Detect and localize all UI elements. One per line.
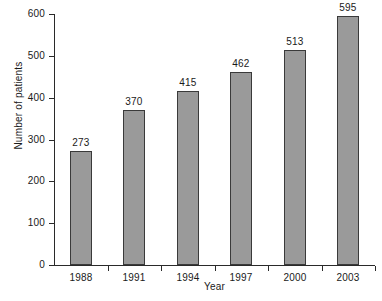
bar-value-label: 370 — [107, 96, 161, 107]
y-tick-label: 600 — [0, 8, 45, 19]
x-tick-mark — [215, 266, 216, 271]
y-tick-mark — [49, 98, 54, 99]
y-tick-mark — [49, 56, 54, 57]
y-tick-label: 100 — [0, 217, 45, 228]
bar-value-label: 513 — [268, 36, 322, 47]
y-tick-label: 300 — [0, 134, 45, 145]
x-axis-title: Year — [54, 281, 375, 292]
bar-value-label: 415 — [161, 77, 215, 88]
bar-chart: Number of patients 0100200300400500600 1… — [0, 0, 382, 301]
x-tick-mark — [161, 266, 162, 271]
bar — [337, 16, 359, 265]
y-tick-label: 400 — [0, 92, 45, 103]
x-tick-mark — [108, 266, 109, 271]
y-tick-label: 200 — [0, 175, 45, 186]
y-tick-mark — [49, 265, 54, 266]
bar — [70, 151, 92, 265]
y-tick-mark — [49, 14, 54, 15]
y-tick-label: 500 — [0, 50, 45, 61]
bar-value-label: 273 — [54, 137, 108, 148]
x-tick-mark — [268, 266, 269, 271]
bar — [177, 91, 199, 265]
y-tick-label: 0 — [0, 259, 45, 270]
x-tick-mark — [322, 266, 323, 271]
bar-value-label: 595 — [321, 2, 375, 13]
bar-value-label: 462 — [214, 58, 268, 69]
bar — [284, 50, 306, 265]
bar — [230, 72, 252, 265]
x-tick-mark — [375, 266, 376, 271]
bar — [123, 110, 145, 265]
y-tick-mark — [49, 223, 54, 224]
y-tick-mark — [49, 181, 54, 182]
